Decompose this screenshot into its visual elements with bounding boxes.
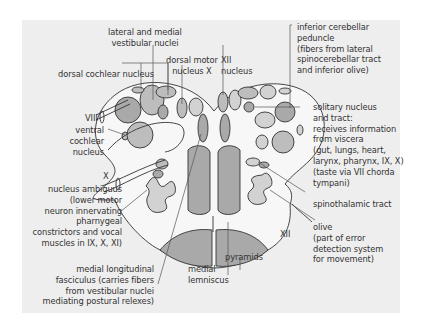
label-xii-nerve: XII (280, 229, 290, 240)
label-vestibular-nuclei: lateral and medial vestibular nuclei (108, 27, 182, 49)
mlf-left (198, 114, 208, 142)
label-inferior-cerebellar: inferior cerebellar peduncle (fibers fro… (297, 22, 381, 76)
solitary-nucleus (244, 102, 254, 112)
medial-lemniscus-right (218, 146, 240, 215)
label-xii-nucleus: XII nucleus (221, 55, 252, 77)
label-spinothalamic: spinothalamic tract (313, 199, 391, 210)
label-viii: VIII (85, 113, 98, 124)
label-ventral-cochlear: ventral cochlear nucleus (62, 125, 104, 157)
medial-lemniscus-left (188, 146, 210, 215)
spinothalamic-tract (259, 162, 269, 168)
dorsal-cochlear-left (132, 87, 144, 93)
inferior-cerebellar-left (127, 122, 153, 148)
label-pyramids: pyramids (225, 252, 263, 263)
label-medial-longitudinal: medial longitudinal fasciculus (carries … (40, 264, 154, 307)
label-solitary: solitary nucleus and tract: receives inf… (313, 102, 404, 188)
label-olive: olive (part of error detection system fo… (313, 222, 383, 265)
label-x-nerve: X (103, 171, 109, 182)
label-dorsal-cochlear: dorsal cochlear nucleus (58, 69, 154, 80)
label-dorsal-motor-x: dorsal motor nucleus X (166, 55, 218, 77)
label-nucleus-ambiguus: nucleus ambiguus (lower motor neuron inn… (20, 184, 122, 249)
inferior-cerebellar-right (275, 102, 295, 122)
mlf-right (220, 114, 230, 142)
label-medial-lemniscus: medial lemniscus (188, 264, 229, 286)
